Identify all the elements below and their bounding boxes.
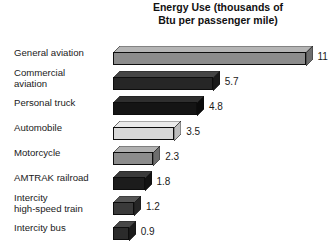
bar-front-face: [113, 202, 134, 215]
bar: [113, 146, 153, 165]
bar-row: Personal truck4.8: [0, 90, 330, 115]
bar-value-label: 11: [318, 51, 328, 62]
bar: [113, 96, 197, 115]
bar-front-face: [113, 152, 153, 165]
bar-side-face: [145, 171, 152, 190]
bar-side-face: [306, 46, 313, 65]
bar-front-face: [113, 77, 213, 90]
bar-value-label: 0.9: [141, 226, 155, 237]
bar-side-face: [134, 196, 141, 215]
bar-row: Commercial aviation5.7: [0, 65, 330, 90]
category-label: AMTRAK railroad: [14, 172, 110, 183]
bar-side-face: [153, 146, 160, 165]
bar-front-face: [113, 177, 145, 190]
bar-side-face: [129, 221, 136, 240]
bar-side-face: [213, 71, 220, 90]
category-label: Automobile: [14, 122, 110, 133]
bar-value-label: 1.8: [157, 176, 171, 187]
bar-front-face: [113, 227, 129, 240]
bar-side-face: [197, 96, 204, 115]
bar-front-face: [113, 52, 306, 65]
bar: [113, 71, 213, 90]
category-label: Commercial aviation: [14, 67, 110, 89]
bar: [113, 171, 145, 190]
bar-value-label: 3.5: [186, 126, 200, 137]
bar-value-label: 1.2: [146, 201, 160, 212]
bar-side-face: [174, 121, 181, 140]
bar-row: Automobile3.5: [0, 115, 330, 140]
bar: [113, 121, 174, 140]
bar-value-label: 5.7: [225, 76, 239, 87]
bar-row: Intercity high-speed train1.2: [0, 190, 330, 215]
category-label: Personal truck: [14, 97, 110, 108]
bar-row: Intercity bus0.9: [0, 215, 330, 240]
category-label: General aviation: [14, 47, 110, 58]
bar-row: AMTRAK railroad1.8: [0, 165, 330, 190]
bar-row: General aviation11: [0, 40, 330, 65]
bar: [113, 46, 306, 65]
category-label: Motorcycle: [14, 147, 110, 158]
bar-value-label: 4.8: [209, 101, 223, 112]
category-label: Intercity bus: [14, 222, 110, 233]
bar-value-label: 2.3: [165, 151, 179, 162]
bar: [113, 196, 134, 215]
bar-row: Motorcycle2.3: [0, 140, 330, 165]
bar: [113, 221, 129, 240]
bar-front-face: [113, 127, 174, 140]
category-label: Intercity high-speed train: [14, 192, 110, 214]
bar-chart-plot-area: General aviation11Commercial aviation5.7…: [0, 0, 330, 251]
bar-front-face: [113, 102, 197, 115]
